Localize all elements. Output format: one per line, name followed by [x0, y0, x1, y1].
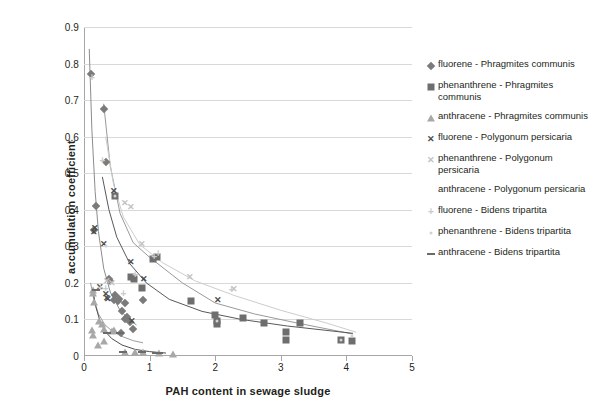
y-tick-label: 0.1 [65, 314, 79, 325]
legend-item[interactable]: anthracene - Bidens tripartita [424, 246, 596, 260]
trendlines [84, 27, 412, 356]
trendline [102, 177, 353, 333]
legend-marker-triangle-icon [424, 112, 438, 124]
legend-item[interactable]: +fluorene - Bidens tripartita [424, 204, 596, 218]
x-tick-label: 0 [81, 362, 87, 373]
legend-item[interactable]: fluorene - Phragmites communis [424, 58, 596, 72]
y-tick-label: 0.5 [65, 168, 79, 179]
legend-item-label: anthracene - Bidens tripartita [438, 246, 560, 258]
x-tick-mark [215, 356, 216, 361]
legend-marker-x-light-icon: ✕ [424, 154, 438, 166]
x-tick-mark [281, 356, 282, 361]
x-tick-mark [150, 356, 151, 361]
y-tick-label: 0.2 [65, 277, 79, 288]
x-tick-label: 4 [344, 362, 350, 373]
x-tick-label: 3 [278, 362, 284, 373]
x-axis-title: PAH content in sewage sludge [84, 385, 412, 397]
legend-item[interactable]: anthracene - Phragmites communis [424, 110, 596, 124]
y-tick-label: 0.9 [65, 22, 79, 33]
x-tick-mark [84, 356, 85, 361]
legend-marker-dot-icon [424, 227, 438, 239]
legend-item-label: fluorene - Phragmites communis [438, 58, 575, 70]
y-tick-label: 0.8 [65, 58, 79, 69]
legend-item-label: phenanthrene - Bidens tripartita [438, 225, 571, 237]
legend-item[interactable]: phenanthrene - Bidens tripartita [424, 225, 596, 239]
legend-key-glyph: + [428, 207, 434, 217]
legend-marker-dash-icon [424, 248, 438, 260]
trendline [89, 49, 136, 325]
legend-key-glyph [430, 232, 433, 235]
chart-figure: accumulation coefficient PAH content in … [0, 0, 598, 414]
legend-key-glyph [427, 62, 435, 70]
y-tick-label: 0 [73, 351, 79, 362]
legend-item[interactable]: phenanthrene - Phragmites communis [424, 79, 596, 103]
legend-item-label: phenanthrene - Polygonum persicaria [438, 152, 596, 176]
chart-area: accumulation coefficient PAH content in … [0, 0, 420, 414]
y-tick-label: 0.3 [65, 241, 79, 252]
x-tick-mark [412, 356, 413, 361]
legend-key-glyph [427, 115, 435, 122]
x-tick-label: 1 [147, 362, 153, 373]
legend: fluorene - Phragmites communisphenanthre… [424, 58, 596, 267]
trendline [91, 283, 143, 343]
legend-marker-none-icon [424, 185, 438, 197]
legend-key-glyph: ✕ [427, 135, 435, 144]
legend-item[interactable]: ✕fluorene - Polygonum persicaria [424, 131, 596, 145]
legend-marker-square-icon [424, 81, 438, 93]
trendline [106, 137, 357, 333]
legend-key-glyph [427, 253, 435, 255]
y-tick-label: 0.6 [65, 131, 79, 142]
legend-marker-plus-icon: + [424, 206, 438, 218]
legend-marker-diamond-icon [424, 60, 438, 72]
x-tick-label: 2 [212, 362, 218, 373]
x-tick-mark [346, 356, 347, 361]
legend-item-label: fluorene - Bidens tripartita [438, 204, 547, 216]
legend-key-glyph [428, 84, 435, 91]
trendline [104, 104, 353, 334]
legend-item-label: anthracene - Polygonum persicaria [438, 183, 585, 195]
legend-marker-x-icon: ✕ [424, 133, 438, 145]
y-tick-label: 0.7 [65, 95, 79, 106]
x-tick-label: 5 [409, 362, 415, 373]
y-tick-label: 0.4 [65, 204, 79, 215]
legend-key-glyph: ✕ [427, 156, 435, 165]
legend-item[interactable]: anthracene - Polygonum persicaria [424, 183, 596, 197]
legend-item-label: anthracene - Phragmites communis [438, 110, 588, 122]
legend-item[interactable]: ✕phenanthrene - Polygonum persicaria [424, 152, 596, 176]
legend-item-label: fluorene - Polygonum persicaria [438, 131, 572, 143]
plot-region: 00.10.20.30.40.50.60.70.80.9 012345 ✕✕✕✕… [84, 27, 412, 356]
legend-item-label: phenanthrene - Phragmites communis [438, 79, 596, 103]
